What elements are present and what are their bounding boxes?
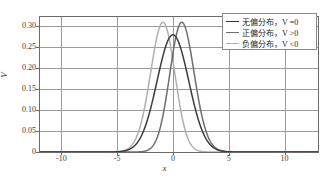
y-tick-label: 0 [4, 148, 36, 156]
y-tick-labels: 00.050.100.150.200.250.30 [0, 0, 36, 181]
legend-item: 正偏分布，V >0 [226, 27, 314, 38]
legend-label: 正偏分布，V >0 [242, 27, 298, 38]
x-tick-label: 5 [209, 154, 249, 163]
legend-item: 负偏分布，V <0 [226, 38, 314, 49]
y-tick-label: 0.20 [4, 64, 36, 72]
y-axis-label: V [0, 72, 9, 78]
x-tick-label: 0 [153, 154, 193, 163]
chart-figure: 00.050.100.150.200.250.30 -10-50510 V x … [0, 0, 329, 181]
legend-swatch-icon [226, 32, 239, 33]
y-tick-label: 0.30 [4, 22, 36, 30]
legend: 无偏分布，V =0 正偏分布，V >0 负偏分布，V <0 [222, 13, 317, 50]
legend-label: 无偏分布，V =0 [242, 16, 298, 27]
x-tick-label: -5 [97, 154, 137, 163]
legend-swatch-icon [226, 43, 239, 44]
legend-item: 无偏分布，V =0 [226, 16, 314, 27]
x-tick-label: 10 [265, 154, 305, 163]
legend-label: 负偏分布，V <0 [242, 38, 298, 49]
legend-swatch-icon [226, 21, 239, 22]
y-tick-label: 0.10 [4, 106, 36, 114]
x-axis-label: x [0, 163, 329, 173]
x-tick-label: -10 [41, 154, 81, 163]
y-tick-label: 0.05 [4, 127, 36, 135]
y-tick-label: 0.15 [4, 85, 36, 93]
y-tick-label: 0.25 [4, 43, 36, 51]
